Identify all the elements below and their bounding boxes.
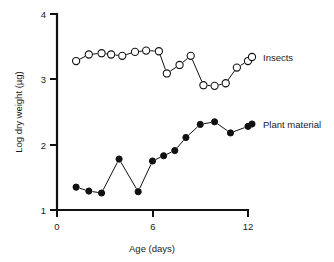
series-segment <box>219 84 222 85</box>
y-tick-label-3: 3 <box>41 74 46 85</box>
y-tick-label-2: 2 <box>41 140 46 151</box>
x-tick-label-12: 12 <box>243 221 254 232</box>
data-point <box>233 64 240 71</box>
data-point <box>197 121 203 127</box>
legend-label-insects: Insects <box>263 52 293 63</box>
series-segment <box>80 56 85 59</box>
series-segment <box>156 157 160 159</box>
data-point <box>116 156 122 162</box>
x-tick-label-6: 6 <box>150 221 155 232</box>
series-segment <box>183 58 188 62</box>
legend-marker-insects-icon <box>248 53 255 60</box>
series-segment <box>121 162 136 188</box>
chart-container: 4 3 2 1 0 6 12 Age (days) Log dry weight… <box>0 0 334 262</box>
series-layer <box>73 47 252 196</box>
data-point <box>183 134 189 140</box>
data-point <box>149 158 155 164</box>
data-point <box>143 47 150 54</box>
y-axis-tick-labels: 4 3 2 1 <box>41 9 46 216</box>
legend-label-plant-material: Plant material <box>263 119 321 130</box>
series-segment <box>170 67 176 71</box>
data-point <box>227 130 233 136</box>
series-segment <box>167 152 171 154</box>
y-tick-label-4: 4 <box>41 9 46 20</box>
y-axis-title: Log dry weight (µg) <box>13 71 24 153</box>
x-tick-label-0: 0 <box>54 221 59 232</box>
series-segment <box>126 53 131 54</box>
data-point <box>172 147 178 153</box>
data-point <box>155 48 162 55</box>
data-point <box>135 189 141 195</box>
series-segment <box>240 63 244 65</box>
data-point <box>86 188 92 194</box>
y-tick-label-1: 1 <box>41 205 46 216</box>
data-point <box>73 184 79 190</box>
data-point <box>163 70 170 77</box>
series-segment <box>218 124 228 131</box>
data-point <box>98 50 105 57</box>
series-segment <box>92 192 97 193</box>
data-point <box>211 82 218 89</box>
data-point <box>119 52 126 59</box>
data-point <box>161 153 167 159</box>
data-point <box>85 51 92 58</box>
data-point <box>73 57 80 64</box>
x-axis-title: Age (days) <box>129 243 175 254</box>
series-segment <box>80 188 86 190</box>
series-segment <box>192 60 201 82</box>
series-segment <box>228 71 234 80</box>
data-point <box>108 51 115 58</box>
legend: Insects Plant material <box>248 52 321 130</box>
legend-marker-plant-material-icon <box>249 121 255 127</box>
x-axis-tick-labels: 0 6 12 <box>54 221 253 232</box>
series-segment <box>234 128 245 132</box>
series-segment <box>140 164 151 188</box>
data-point <box>187 52 194 59</box>
data-point <box>176 61 183 68</box>
data-point <box>211 119 217 125</box>
data-point <box>98 190 104 196</box>
series-segment <box>103 162 117 189</box>
data-point <box>222 80 229 87</box>
series-insects <box>73 47 252 89</box>
data-point <box>200 82 207 89</box>
series-segment <box>189 127 198 135</box>
data-point <box>131 48 138 55</box>
series-segment <box>177 140 183 147</box>
line-chart: 4 3 2 1 0 6 12 Age (days) Log dry weight… <box>0 0 334 262</box>
series-segment <box>204 122 211 123</box>
series-segment <box>160 55 165 69</box>
series-plant-material <box>73 119 251 196</box>
